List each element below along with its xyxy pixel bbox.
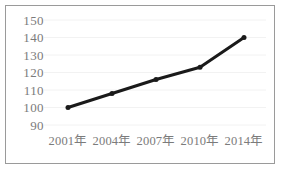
x-tick-label: 2007年 <box>137 135 176 148</box>
x-tick-label: 2001年 <box>49 135 88 148</box>
x-tick-label: 2010年 <box>181 135 220 148</box>
x-axis-labels: 2001年2004年2007年2010年2014年 <box>6 6 274 163</box>
chart-figure: 90100110120130140150 2001年2004年2007年2010… <box>5 5 275 164</box>
plot-area: 90100110120130140150 2001年2004年2007年2010… <box>6 6 274 163</box>
x-tick-label: 2014年 <box>225 135 264 148</box>
x-tick-label: 2004年 <box>93 135 132 148</box>
